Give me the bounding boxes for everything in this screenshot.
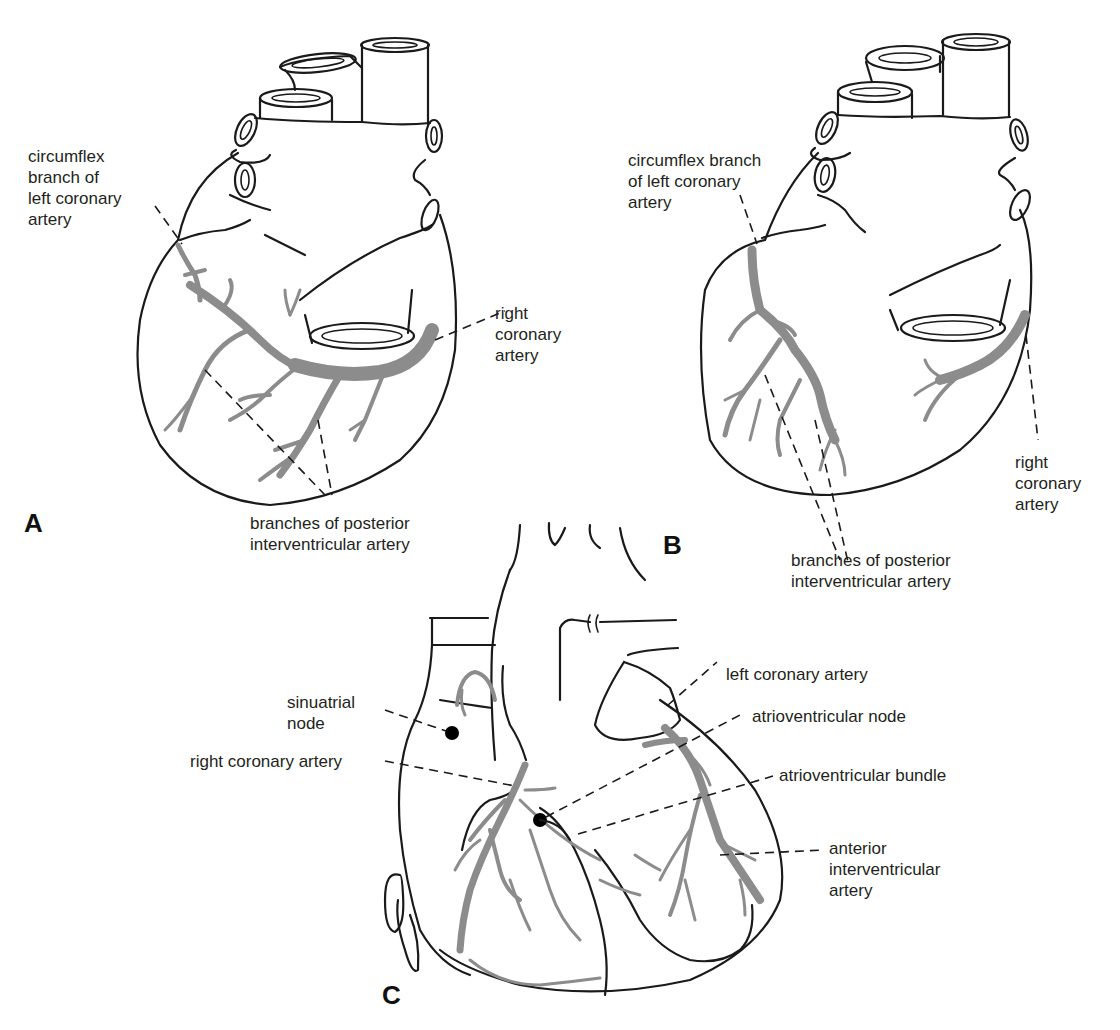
sinuatrial-node-dot bbox=[445, 726, 459, 740]
label-b-circumflex-branch: circumflex branch of left coronary arter… bbox=[628, 150, 761, 213]
label-c-anterior-interventricular-artery: anterior interventricular artery bbox=[829, 838, 941, 901]
label-c-atrioventricular-bundle: atrioventricular bundle bbox=[779, 765, 946, 786]
label-b-posterior-interventricular-branches: branches of posterior interventricular a… bbox=[791, 550, 951, 592]
label-c-sinuatrial-node: sinuatrial node bbox=[287, 692, 355, 734]
panel-c-letter: C bbox=[382, 980, 401, 1011]
panel-c-drawing bbox=[0, 0, 1120, 1030]
label-b-right-coronary-artery: right coronary artery bbox=[1015, 452, 1081, 515]
label-a-right-coronary-artery: right coronary artery bbox=[495, 303, 561, 366]
panel-c-leaders bbox=[385, 662, 823, 855]
panel-a-letter: A bbox=[24, 508, 43, 539]
panel-c-arteries bbox=[455, 672, 760, 985]
panel-c-great-vessels bbox=[385, 523, 782, 995]
label-c-left-coronary-artery: left coronary artery bbox=[726, 664, 868, 685]
panel-c-conduction bbox=[445, 726, 570, 840]
coronary-artery-figure: A circumflex branch of left coronary art… bbox=[0, 0, 1120, 1030]
label-c-atrioventricular-node: atrioventricular node bbox=[752, 706, 906, 727]
label-a-posterior-interventricular-branches: branches of posterior interventricular a… bbox=[250, 513, 410, 555]
label-a-circumflex-branch: circumflex branch of left coronary arter… bbox=[28, 146, 122, 230]
label-c-right-coronary-artery: right coronary artery bbox=[190, 751, 342, 772]
panel-b-letter: B bbox=[663, 530, 682, 561]
